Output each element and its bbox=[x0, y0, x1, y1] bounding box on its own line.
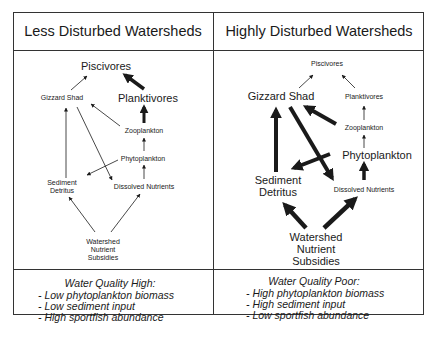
food-web-comparison-figure: Less Disturbed Watersheds bbox=[0, 0, 436, 344]
food-web-nodes: Piscivores Gizzard Shad Planktivores Zoo… bbox=[41, 60, 179, 261]
node-zooplankton: Zooplankton bbox=[345, 124, 384, 132]
arrow-phyto-to-detritus bbox=[87, 160, 118, 175]
water-quality-summary: Water Quality High: - Low phytoplankton … bbox=[38, 277, 175, 323]
node-watershed-line2: Nutrient bbox=[91, 246, 116, 253]
node-sediment-detritus-line1: Sediment bbox=[255, 174, 301, 186]
node-watershed-line1: Watershed bbox=[86, 238, 120, 245]
node-sediment-detritus-line2: Detritus bbox=[259, 186, 297, 198]
panel-title: Highly Disturbed Watersheds bbox=[225, 23, 412, 39]
arrow-watershed-to-detritus bbox=[69, 197, 95, 232]
panel-highly-disturbed: Highly Disturbed Watersheds bbox=[225, 23, 412, 321]
node-watershed-line2: Nutrient bbox=[297, 243, 336, 255]
arrow-zooplankton-to-shad bbox=[91, 104, 120, 126]
arrow-watershed-to-dissolved bbox=[324, 199, 355, 228]
arrow-planktivores-to-piscivores bbox=[125, 75, 144, 89]
arrow-shad-to-dissolved bbox=[77, 107, 112, 180]
node-phytoplankton: Phytoplankton bbox=[121, 155, 165, 163]
node-zooplankton: Zooplankton bbox=[125, 127, 164, 135]
water-quality-summary: Water Quality Poor: - High phytoplankton… bbox=[246, 275, 385, 321]
node-piscivores: Piscivores bbox=[81, 60, 132, 72]
node-watershed-line1: Watershed bbox=[290, 231, 343, 243]
figure-frame bbox=[14, 13, 424, 315]
node-sediment-detritus-line1: Sediment bbox=[47, 179, 77, 186]
node-phytoplankton: Phytoplankton bbox=[342, 149, 412, 161]
food-web-nodes: Piscivores Gizzard Shad Planktivores Zoo… bbox=[248, 60, 412, 267]
summary-heading: Water Quality Poor: bbox=[268, 275, 360, 287]
arrow-shad-to-piscivores bbox=[299, 75, 313, 88]
node-dissolved-nutrients: Dissolved Nutrients bbox=[334, 186, 395, 193]
summary-heading: Water Quality High: bbox=[65, 277, 156, 289]
summary-item: - High sportfish abundance bbox=[38, 311, 164, 323]
panel-less-disturbed: Less Disturbed Watersheds bbox=[24, 23, 202, 323]
arrow-watershed-to-dissolved bbox=[111, 194, 140, 232]
summary-item: - Low sportfish abundance bbox=[246, 309, 369, 321]
node-gizzard-shad: Gizzard Shad bbox=[248, 90, 315, 102]
arrow-zooplankton-to-shad bbox=[306, 107, 336, 124]
arrow-shad-to-piscivores bbox=[71, 76, 87, 90]
node-sediment-detritus-line2: Detritus bbox=[50, 187, 75, 194]
panel-title: Less Disturbed Watersheds bbox=[24, 23, 202, 39]
node-piscivores: Piscivores bbox=[311, 60, 343, 67]
node-planktivores: Planktivores bbox=[345, 93, 384, 100]
arrow-watershed-to-detritus bbox=[285, 205, 306, 228]
node-planktivores: Planktivores bbox=[118, 92, 178, 104]
node-watershed-line3: Subsidies bbox=[88, 254, 119, 261]
node-gizzard-shad: Gizzard Shad bbox=[41, 94, 84, 101]
node-dissolved-nutrients: Dissolved Nutrients bbox=[114, 183, 175, 190]
node-watershed-line3: Subsidies bbox=[292, 255, 340, 267]
arrow-planktivores-to-piscivores bbox=[342, 75, 355, 88]
